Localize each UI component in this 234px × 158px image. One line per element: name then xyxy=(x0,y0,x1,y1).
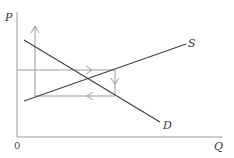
supply-curve xyxy=(24,44,186,101)
supply-label: S xyxy=(188,37,196,50)
origin-label: 0 xyxy=(14,140,20,151)
demand-label: D xyxy=(162,119,172,132)
x-axis-label: Q xyxy=(214,140,223,153)
supply-demand-diagram: P Q 0 S D xyxy=(0,0,234,158)
demand-curve xyxy=(24,40,160,122)
y-axis-label: P xyxy=(4,11,13,24)
cobweb-path xyxy=(17,26,119,100)
